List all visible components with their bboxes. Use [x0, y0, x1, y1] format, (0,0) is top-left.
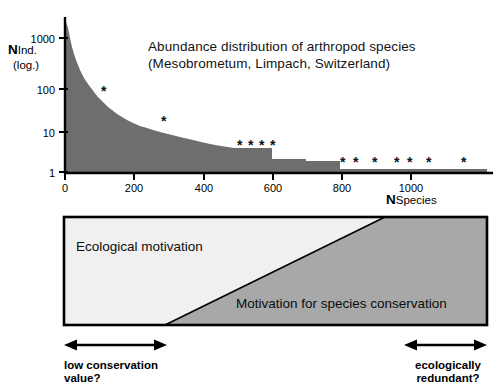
species-marker-asterisk: * [101, 84, 106, 98]
low-conservation-caption: low conservation value? [64, 359, 158, 385]
abundance-chart-svg: 1000 100 10 1 0 200 400 600 800 1000 [0, 0, 500, 205]
y-axis-label-symbol: N [8, 42, 18, 57]
low-conservation-caption-line-2: value? [64, 372, 158, 385]
species-conservation-label: Motivation for species conservation [236, 296, 447, 311]
figure-container: 1000 100 10 1 0 200 400 600 800 1000 Abu… [0, 0, 500, 391]
x-tick-labels: 0 200 400 600 800 1000 [62, 182, 423, 194]
x-tick-label: 400 [195, 182, 213, 194]
species-marker-asterisk: * [372, 155, 377, 169]
species-marker-asterisk: * [394, 155, 399, 169]
y-axis-label-text: Ind. [18, 44, 37, 56]
y-tick-label: 10 [43, 127, 55, 139]
species-marker-asterisk: * [461, 155, 466, 169]
abundance-chart-panel: 1000 100 10 1 0 200 400 600 800 1000 Abu… [0, 0, 500, 205]
chart-title-line-2: (Mesobrometum, Limpach, Switzerland) [148, 56, 390, 71]
species-marker-asterisk: * [353, 155, 358, 169]
ecological-motivation-label: Ecological motivation [76, 239, 203, 254]
x-tick-label: 800 [333, 182, 351, 194]
species-marker-asterisk: * [407, 155, 412, 169]
y-axis-label-scale: (log.) [13, 58, 39, 73]
low-conservation-arrow [64, 340, 167, 351]
species-marker-asterisk: * [426, 155, 431, 169]
species-marker-asterisk: * [340, 155, 345, 169]
ecologically-redundant-arrow [404, 340, 487, 351]
species-marker-asterisk: * [259, 138, 264, 152]
ecologically-redundant-caption: ecologically redundant? [404, 359, 492, 385]
y-tick-label: 1 [49, 167, 55, 179]
x-tick-label: 0 [62, 182, 68, 194]
x-tick-label: 200 [125, 182, 143, 194]
y-axis-label: NInd. (log.) [8, 42, 39, 73]
y-tick-label: 100 [37, 84, 55, 96]
species-marker-asterisk: * [161, 114, 166, 128]
x-tick-label: 600 [264, 182, 282, 194]
species-marker-asterisk: * [237, 138, 242, 152]
ecologically-redundant-caption-line-2: redundant? [404, 372, 492, 385]
species-marker-asterisk: * [270, 138, 275, 152]
ecologically-redundant-caption-line-1: ecologically [404, 359, 492, 372]
species-marker-asterisk: * [248, 138, 253, 152]
chart-title-line-1: Abundance distribution of arthropod spec… [148, 39, 416, 54]
low-conservation-caption-line-1: low conservation [64, 359, 158, 372]
